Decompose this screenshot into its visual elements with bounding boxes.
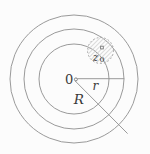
center-label: 0 <box>65 72 73 87</box>
R-label: R <box>73 91 84 107</box>
concentric-circles-figure: 0 r R z 0 <box>0 0 150 154</box>
z0-label-subscript: 0 <box>99 55 104 64</box>
diagram-canvas: 0 r R z 0 <box>0 0 150 154</box>
radius-line-R <box>75 81 127 134</box>
center-point-marker <box>74 78 77 81</box>
z0-label: z <box>92 51 99 63</box>
r-label: r <box>93 79 100 93</box>
z0-point-marker <box>101 46 104 49</box>
